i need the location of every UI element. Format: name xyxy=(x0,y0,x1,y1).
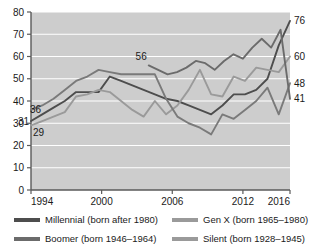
legend-item-millennial[interactable]: Millennial (born after 1980) xyxy=(0,210,172,229)
x-axis-ticks: 19942000200620122016 xyxy=(31,190,290,207)
y-tick-label: 80 xyxy=(13,7,25,18)
x-tick-label: 2016 xyxy=(268,196,291,207)
x-tick-label: 2006 xyxy=(161,196,184,207)
legend-label-millennial: Millennial (born after 1980) xyxy=(45,214,158,225)
value-label: 31 xyxy=(18,116,30,127)
legend-swatch-millennial xyxy=(14,218,40,222)
legend-row: Millennial (born after 1980) Gen X (born… xyxy=(0,210,321,229)
y-tick-label: 70 xyxy=(13,29,25,40)
legend-item-boomer[interactable]: Boomer (born 1946–1964) xyxy=(0,229,172,248)
legend-item-silent[interactable]: Silent (born 1928–1945) xyxy=(172,229,321,248)
line-chart: 01020304050607080 19942000200620122016 3… xyxy=(0,0,321,249)
y-tick-label: 50 xyxy=(13,73,25,84)
legend-swatch-silent xyxy=(172,237,198,241)
legend-swatch-boomer xyxy=(14,237,40,241)
y-tick-label: 0 xyxy=(18,185,24,196)
value-label: 76 xyxy=(294,15,306,26)
legend-swatch-genx xyxy=(172,218,198,222)
legend-label-silent: Silent (born 1928–1945) xyxy=(203,233,305,244)
value-label: 29 xyxy=(33,127,45,138)
value-label: 56 xyxy=(136,51,148,62)
value-label: 48 xyxy=(294,78,306,89)
x-tick-label: 2000 xyxy=(91,196,114,207)
value-label: 60 xyxy=(294,51,306,62)
value-label: 36 xyxy=(30,104,42,115)
legend-row: Boomer (born 1946–1964) Silent (born 192… xyxy=(0,229,321,248)
y-tick-label: 20 xyxy=(13,140,25,151)
x-tick-label: 2012 xyxy=(232,196,255,207)
value-label: 41 xyxy=(294,93,306,104)
x-tick-label: 1994 xyxy=(31,196,54,207)
legend-label-boomer: Boomer (born 1946–1964) xyxy=(45,233,156,244)
legend-label-genx: Gen X (born 1965–1980) xyxy=(203,214,308,225)
chart-legend: Millennial (born after 1980) Gen X (born… xyxy=(0,210,321,249)
y-tick-label: 40 xyxy=(13,96,25,107)
y-tick-label: 10 xyxy=(13,162,25,173)
y-axis-ticks: 01020304050607080 xyxy=(13,7,31,196)
legend-item-genx[interactable]: Gen X (born 1965–1980) xyxy=(172,210,321,229)
y-tick-label: 60 xyxy=(13,51,25,62)
